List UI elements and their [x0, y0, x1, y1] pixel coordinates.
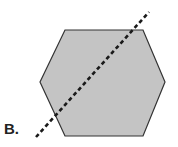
hexagon — [40, 30, 165, 136]
figure-label: B. — [4, 120, 19, 137]
hexagon-figure — [0, 0, 178, 147]
